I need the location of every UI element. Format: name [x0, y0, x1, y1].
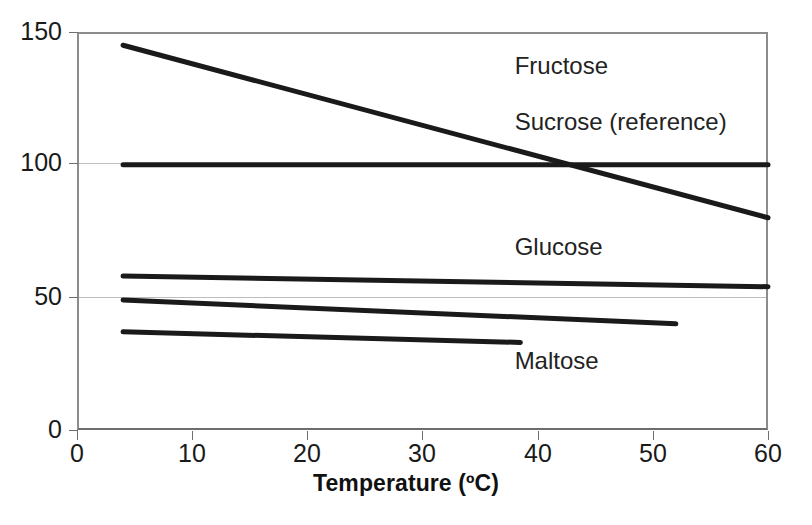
y-tick-label-100: 100 — [0, 150, 62, 175]
y-tick-mark-50 — [69, 297, 78, 298]
x-tick-label-30: 30 — [382, 441, 462, 466]
plot-area-frame — [77, 32, 768, 430]
x-tick-label-10: 10 — [152, 441, 232, 466]
y-tick-mark-100 — [69, 163, 78, 164]
series-label-fructose: Fructose — [515, 54, 608, 78]
x-axis-title: Temperature (ºC) — [0, 470, 812, 497]
x-tick-label-40: 40 — [498, 441, 578, 466]
series-label-maltose: Maltose — [515, 349, 599, 373]
x-tick-label-60: 60 — [728, 441, 808, 466]
y-tick-label-0: 0 — [0, 417, 62, 442]
x-tick-label-20: 20 — [267, 441, 347, 466]
x-tick-label-50: 50 — [613, 441, 693, 466]
series-label-sucrose: Sucrose (reference) — [515, 110, 727, 134]
series-label-glucose: Glucose — [515, 235, 603, 259]
x-tick-label-0: 0 — [37, 441, 117, 466]
sweetness-temperature-chart: 150 100 50 0 0 10 20 30 40 50 60 Tempera… — [0, 0, 812, 525]
y-tick-mark-150 — [69, 32, 78, 33]
y-tick-label-150: 150 — [0, 19, 62, 44]
y-tick-label-50: 50 — [0, 284, 62, 309]
